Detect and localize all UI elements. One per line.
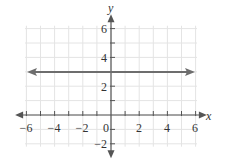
x-tick-label: −6 [20,121,33,135]
x-axis-left-arrow-icon [15,112,23,119]
x-tick-labels: −6 −4 −2 0 2 4 6 [20,121,198,135]
x-tick-label: 6 [192,121,198,135]
x-axis-label: x [205,109,212,123]
x-tick-label: 0 [103,121,109,135]
x-tick-label: −4 [48,121,61,135]
y-axis-up-arrow-icon [108,14,115,22]
y-tick-label: 6 [101,22,107,36]
y-tick-label: −2 [94,137,107,151]
y-tick-label: 2 [101,80,107,94]
x-tick-label: 2 [136,121,142,135]
coordinate-plane: −6 −4 −2 0 2 4 6 6 4 2 −2 x y [0,0,227,167]
y-axis-label: y [107,1,114,15]
x-tick-label: 4 [164,121,170,135]
x-tick-label: −2 [76,121,89,135]
y-axis-down-arrow-icon [108,150,115,158]
y-tick-label: 4 [101,51,107,65]
